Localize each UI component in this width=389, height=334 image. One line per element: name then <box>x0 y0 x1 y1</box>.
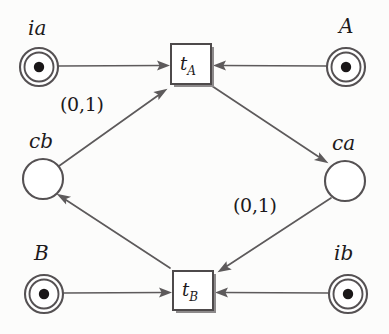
token-ia <box>34 62 44 72</box>
transition-label-tB-subscript: B <box>189 290 198 304</box>
arc-ia-to-tA <box>58 61 170 71</box>
arc-A-to-tA <box>213 61 327 71</box>
arc-tB-to-cb <box>57 194 171 268</box>
place-label-cb: cb <box>29 131 53 151</box>
place-label-A: A <box>339 16 353 36</box>
transition-label-tB: tB <box>182 281 198 303</box>
place-label-ia: ia <box>28 18 46 38</box>
petri-net-diagram: ia A cb ca B ib tA tB (0,1) (0,1) <box>0 0 389 334</box>
place-ca[interactable] <box>325 161 365 201</box>
arc-tA-to-ca <box>212 86 329 163</box>
place-label-ib: ib <box>334 243 353 263</box>
place-A[interactable] <box>327 48 365 86</box>
transition-label-tA-subscript: A <box>187 64 196 78</box>
place-label-ca: ca <box>332 133 355 153</box>
transition-label-tA: tA <box>180 55 196 77</box>
place-B[interactable] <box>25 275 63 313</box>
arc-B-to-tB <box>63 288 172 298</box>
token-B <box>39 289 49 299</box>
arc-label-cb-to-tA: (0,1) <box>60 95 104 114</box>
place-ib[interactable] <box>329 275 367 313</box>
token-ib <box>343 289 353 299</box>
place-ia[interactable] <box>20 48 58 86</box>
token-A <box>341 62 351 72</box>
place-label-B: B <box>34 243 49 263</box>
place-cb[interactable] <box>23 159 63 199</box>
arc-ib-to-tB <box>215 288 329 298</box>
arc-label-ca-to-tB: (0,1) <box>233 196 277 215</box>
